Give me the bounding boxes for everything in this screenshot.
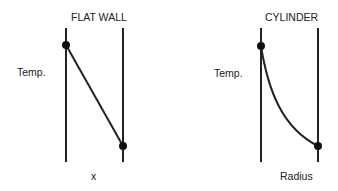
cylinder-x-label: Radius xyxy=(280,170,313,182)
flat-wall-x-label: x xyxy=(91,170,96,182)
cylinder-inner-temp-point xyxy=(257,42,265,50)
cylinder-outer-temp-point xyxy=(314,142,322,150)
diagram-canvas xyxy=(0,0,338,191)
flat-wall-panel xyxy=(62,28,127,162)
flat-wall-temperature-profile xyxy=(66,45,123,146)
cylinder-panel xyxy=(257,28,322,162)
cylinder-y-label: Temp. xyxy=(214,67,243,79)
flat-wall-title: FLAT WALL xyxy=(71,11,127,23)
flat-wall-y-label: Temp. xyxy=(17,66,46,78)
cylinder-title: CYLINDER xyxy=(265,11,318,23)
cylinder-temperature-profile xyxy=(261,46,318,146)
flat-wall-outer-temp-point xyxy=(119,142,127,150)
flat-wall-inner-temp-point xyxy=(62,41,70,49)
